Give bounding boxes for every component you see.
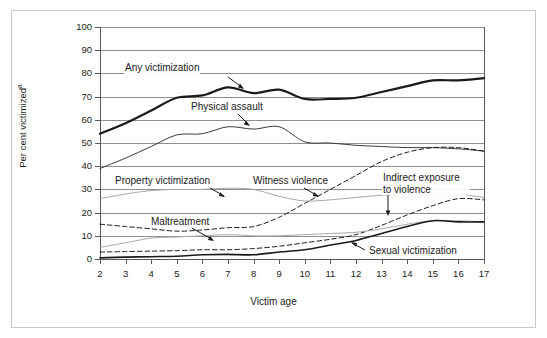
y-axis-title: Per cent victimizeda bbox=[16, 66, 28, 186]
annotation-sexual-victimization: Sexual victimization bbox=[368, 245, 458, 257]
annotation-maltreatment: Maltreatment bbox=[150, 216, 210, 228]
annotation-indirect-exposure-to-violence: Indirect exposure to violence bbox=[382, 172, 470, 195]
y-axis-title-footnote: a bbox=[16, 84, 23, 88]
annotation-witness-violence: Witness violence bbox=[252, 175, 329, 187]
annotation-physical-assault: Physical assault bbox=[190, 101, 264, 113]
annotation-arrows bbox=[0, 0, 547, 338]
annotation-any-victimization: Any victimization bbox=[124, 62, 200, 74]
y-axis-title-text: Per cent victimized bbox=[17, 88, 28, 168]
annotation-property-victimization: Property victimization bbox=[114, 175, 211, 187]
chart-figure: 0102030405060708090100 23456789101112131… bbox=[0, 0, 547, 338]
x-axis-title: Victim age bbox=[0, 296, 547, 307]
